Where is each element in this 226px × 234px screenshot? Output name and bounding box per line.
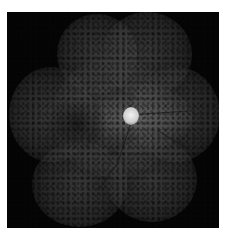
- fundus-image-frame: [7, 12, 219, 228]
- optic-disc: [123, 107, 139, 125]
- fundus-montage: [7, 12, 219, 228]
- mottled-texture: [7, 12, 219, 228]
